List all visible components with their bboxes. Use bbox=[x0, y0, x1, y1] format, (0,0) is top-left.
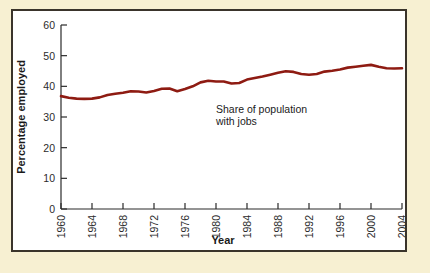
x-tick-label: 1992 bbox=[303, 215, 315, 239]
x-tick-label: 2004 bbox=[396, 215, 405, 239]
x-tick-label: 1996 bbox=[334, 215, 346, 239]
y-tick-label: 60 bbox=[43, 19, 55, 31]
y-tick-label: 40 bbox=[43, 80, 55, 92]
x-axis-ticks bbox=[61, 203, 402, 209]
y-tick-label: 0 bbox=[49, 203, 55, 215]
chart-plot-area: 0102030405060 19601964196819721976198019… bbox=[13, 11, 405, 250]
y-tick-label: 30 bbox=[43, 111, 55, 123]
x-tick-label: 1968 bbox=[117, 215, 129, 239]
chart-frame: 0102030405060 19601964196819721976198019… bbox=[11, 9, 407, 252]
y-tick-label: 20 bbox=[43, 142, 55, 154]
x-axis-title: Year bbox=[211, 234, 235, 246]
y-axis-title: Percentage employed bbox=[15, 60, 27, 174]
y-tick-label: 50 bbox=[43, 50, 55, 62]
y-tick-label: 10 bbox=[43, 172, 55, 184]
annotation-label-line2: with jobs bbox=[215, 115, 257, 127]
annotation-label-line1: Share of population bbox=[216, 103, 307, 115]
x-tick-label: 1964 bbox=[86, 215, 98, 239]
y-axis-tick-labels: 0102030405060 bbox=[43, 19, 55, 215]
x-tick-label: 1960 bbox=[55, 215, 67, 239]
x-tick-label: 1972 bbox=[148, 215, 160, 239]
x-tick-label: 1988 bbox=[272, 215, 284, 239]
x-tick-label: 1984 bbox=[241, 215, 253, 239]
y-axis-ticks bbox=[61, 25, 67, 209]
x-tick-label: 2000 bbox=[365, 215, 377, 239]
figure-container: 0102030405060 19601964196819721976198019… bbox=[0, 0, 430, 273]
data-line-share-of-population-with-jobs bbox=[61, 65, 402, 99]
x-tick-label: 1976 bbox=[179, 215, 191, 239]
